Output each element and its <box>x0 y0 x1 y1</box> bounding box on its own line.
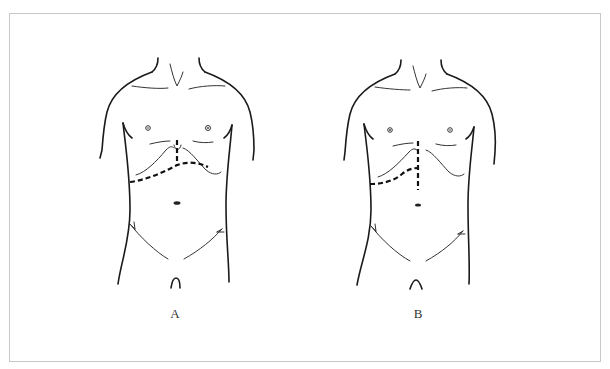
panel-label-a: A <box>170 306 179 322</box>
nipple-left-b <box>388 128 393 133</box>
torso-diagrams <box>0 0 610 369</box>
nipple-right-a <box>206 126 211 131</box>
panel-label-b: B <box>414 306 423 322</box>
torso-a <box>100 58 254 288</box>
torso-b <box>344 60 495 289</box>
nipple-left-a <box>146 126 151 131</box>
nipple-right-b <box>448 128 453 133</box>
incision-subcostal-b <box>370 168 418 184</box>
umbilicus-b <box>415 203 421 206</box>
umbilicus-a <box>174 201 181 205</box>
